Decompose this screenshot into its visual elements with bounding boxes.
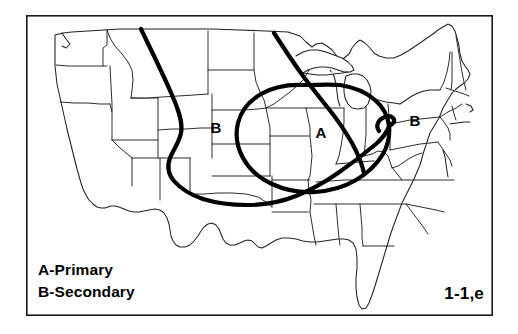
state-border-nj-ny <box>440 117 450 140</box>
region-label-b-west: B <box>211 119 222 136</box>
state-border-md-de-va <box>438 142 452 166</box>
cape-cod <box>466 104 473 112</box>
state-border-sc-nc <box>406 204 444 212</box>
state-boundaries <box>55 24 473 309</box>
figure-container: B A B A-Primary B-Secondary 1-1,e <box>0 0 518 334</box>
figure-number-label: 1-1,e <box>444 285 484 302</box>
region-label-b-east: B <box>410 112 421 129</box>
region-label-a-center: A <box>316 124 327 141</box>
national-outline <box>55 24 470 309</box>
legend-secondary-label: B-Secondary <box>38 284 135 300</box>
state-border-ga-sc <box>406 204 428 234</box>
legend-primary-label: A-Primary <box>38 262 113 278</box>
long-island <box>450 122 470 124</box>
